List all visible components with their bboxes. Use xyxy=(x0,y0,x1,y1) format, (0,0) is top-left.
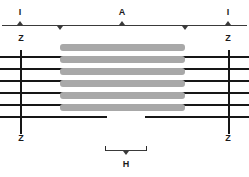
myosin-filament xyxy=(60,56,185,63)
label-i-band-right: I xyxy=(221,8,235,17)
z-line-right xyxy=(228,50,230,134)
label-z-bottom-right: Z xyxy=(221,134,235,143)
myosin-filament xyxy=(60,80,185,87)
label-a-band: A xyxy=(115,8,129,17)
bracket-tick-up-right xyxy=(225,21,231,25)
bracket-tick-down-right xyxy=(182,26,188,30)
label-z-bottom-left: Z xyxy=(14,134,28,143)
h-zone-bracket-stub-right xyxy=(146,146,147,151)
label-z-top-right: Z xyxy=(221,34,235,43)
actin-filament-right xyxy=(145,116,249,118)
myosin-filament xyxy=(60,44,185,51)
label-h-zone: H xyxy=(119,160,133,169)
actin-filament-left xyxy=(0,116,107,118)
bracket-tick-up-left xyxy=(17,21,23,25)
myosin-filament xyxy=(60,104,185,111)
h-zone-bracket-stub-left xyxy=(105,146,106,151)
myosin-filament xyxy=(60,68,185,75)
band-bracket-line xyxy=(2,25,247,26)
bracket-tick-down-left xyxy=(57,26,63,30)
z-line-left xyxy=(20,50,22,134)
h-zone-bracket-tick xyxy=(123,151,129,155)
myosin-filament xyxy=(60,92,185,99)
label-i-band-left: I xyxy=(13,8,27,17)
bracket-tick-up-center xyxy=(119,21,125,25)
sarcomere-diagram: I A I Z Z Z Z xyxy=(0,0,249,177)
label-z-top-left: Z xyxy=(14,34,28,43)
